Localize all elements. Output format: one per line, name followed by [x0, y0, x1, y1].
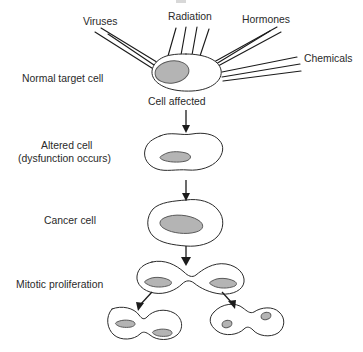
hormone-rays — [214, 27, 281, 66]
arrow-altered-to-cancer — [182, 180, 190, 201]
arrow-cancer-to-mitotic — [181, 246, 191, 266]
label-radiation: Radiation — [168, 11, 212, 22]
carcinogenesis-diagram: Viruses Radiation Hormones Chemicals Nor… — [0, 0, 363, 352]
arrow-mitotic-to-daughter-left — [136, 292, 152, 311]
altered-cell — [145, 133, 223, 170]
virus-rays — [95, 28, 160, 70]
label-viruses: Viruses — [83, 16, 117, 27]
daughter-left-nucleus-a — [116, 320, 136, 327]
diagram-canvas: Viruses Radiation Hormones Chemicals Nor… — [0, 0, 363, 352]
label-normal-target-cell: Normal target cell — [22, 73, 103, 84]
mitotic-dividing-cell — [137, 261, 244, 294]
scan-crop-mark — [176, 0, 186, 3]
label-cancer-cell: Cancer cell — [44, 215, 96, 226]
label-hormones: Hormones — [242, 14, 290, 25]
label-cell-affected: Cell affected — [148, 96, 206, 107]
daughter-cell-pair-right — [210, 304, 284, 336]
daughter-left-nucleus-b — [153, 329, 173, 336]
chemical-rays — [222, 57, 301, 81]
label-altered-cell-line2: (dysfunction occurs) — [18, 153, 111, 164]
arrow-affected-to-altered — [182, 110, 190, 133]
mitotic-nucleus-right — [210, 278, 237, 288]
mitotic-nucleus-left — [145, 277, 172, 287]
label-altered-cell-line1: Altered cell — [41, 140, 92, 151]
radiation-rays — [168, 27, 209, 56]
daughter-cell-pair-left — [108, 307, 182, 339]
cancer-cell — [148, 199, 223, 246]
label-mitotic-proliferation: Mitotic proliferation — [16, 279, 103, 290]
label-chemicals: Chemicals — [304, 53, 353, 64]
normal-target-cell — [152, 54, 221, 91]
